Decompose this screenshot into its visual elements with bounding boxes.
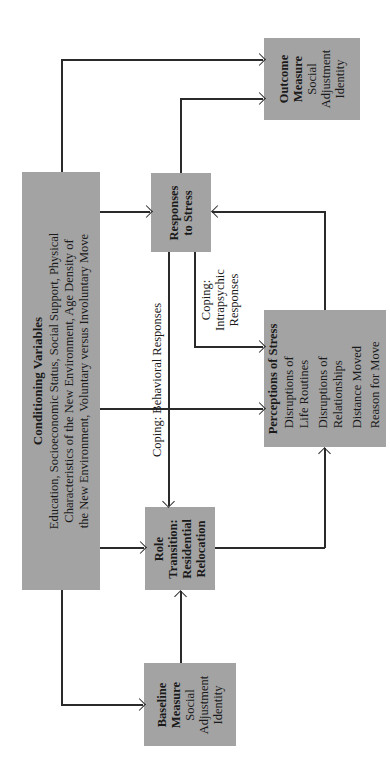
edge-label-intrapsychic-3: Responses	[227, 269, 241, 331]
edge-conditioning-outcome-vertical	[61, 59, 63, 172]
baseline-measure-line-3: Identity	[211, 675, 225, 733]
edge-intrapsychic-vertical	[194, 252, 196, 347]
perceptions-line-1: Disruptions of	[282, 323, 298, 434]
edge-perceptions-responses-vertical	[324, 211, 326, 310]
arrowhead-up-icon	[174, 590, 187, 603]
baseline-measure-title-1: Baseline	[155, 675, 169, 733]
outcome-measure-line-2: Adjustment	[319, 50, 333, 108]
outcome-measure-title-1: Outcome	[277, 50, 291, 108]
role-transition-title-3: Residential	[180, 519, 194, 579]
conditioning-variables-box: Conditioning Variables Education, Socioe…	[22, 172, 100, 590]
role-transition-title-1: Role	[152, 519, 166, 579]
perceptions-of-stress-title: Perceptions of Stress	[266, 323, 282, 434]
responses-to-stress-title-2: to Stress	[181, 185, 195, 240]
perceptions-line-4: Relationships	[331, 323, 347, 434]
edge-role-perceptions-vertical	[324, 448, 326, 548]
edge-label-intrapsychic-1: Coping:	[199, 269, 213, 331]
role-transition-title-2: Transition:	[166, 519, 180, 579]
edge-conditioning-baseline-horizontal	[61, 704, 143, 706]
edge-conditioning-baseline-vertical	[61, 590, 63, 705]
edge-label-intrapsychic-2: Intrapsychic	[213, 269, 227, 331]
baseline-measure-title-2: Measure	[169, 675, 183, 733]
edge-conditioning-perceptions	[100, 408, 263, 410]
arrowhead-down-icon	[162, 495, 175, 508]
edge-role-perceptions-horizontal	[215, 547, 325, 549]
edge-conditioning-outcome-horizontal	[61, 59, 263, 61]
arrowhead-left-icon	[211, 205, 224, 218]
outcome-measure-title-2: Measure	[291, 50, 305, 108]
outcome-measure-line-3: Identity	[333, 50, 347, 108]
role-transition-box: Role Transition: Residential Relocation	[145, 507, 215, 590]
edge-behavioral-vertical	[168, 252, 170, 506]
baseline-measure-line-1: Social	[183, 675, 197, 733]
perceptions-line-6: Reason for Move	[368, 323, 384, 434]
edge-label-behavioral: Coping: Behavioral Responses	[150, 303, 165, 457]
perceptions-of-stress-box: Perceptions of Stress Disruptions of Lif…	[264, 310, 386, 447]
edge-responses-outcome-vertical	[180, 98, 182, 173]
conditioning-variables-line-1: Education, Socioeconomic Status, Social …	[47, 233, 62, 530]
conditioning-variables-line-3: the New Environment, Voluntary versus In…	[77, 233, 92, 530]
perceptions-line-5: Distance Moved	[350, 323, 366, 434]
conditioning-variables-title: Conditioning Variables	[30, 233, 45, 530]
responses-to-stress-title-1: Responses	[167, 185, 181, 240]
edge-responses-outcome-horizontal	[180, 98, 263, 100]
perceptions-line-3: Disruptions of	[316, 323, 332, 434]
outcome-measure-line-1: Social	[305, 50, 319, 108]
role-transition-title-4: Relocation	[194, 519, 208, 579]
baseline-measure-line-2: Adjustment	[197, 675, 211, 733]
edge-perceptions-responses-horizontal	[212, 211, 325, 213]
perceptions-line-2: Life Routines	[297, 323, 313, 434]
baseline-measure-box: Baseline Measure Social Adjustment Ident…	[144, 663, 236, 746]
outcome-measure-box: Outcome Measure Social Adjustment Identi…	[264, 38, 360, 120]
responses-to-stress-box: Responses to Stress	[151, 173, 211, 252]
arrowhead-up-icon	[318, 447, 331, 460]
conditioning-variables-line-2: Characteristics of the New Environment, …	[62, 233, 77, 530]
